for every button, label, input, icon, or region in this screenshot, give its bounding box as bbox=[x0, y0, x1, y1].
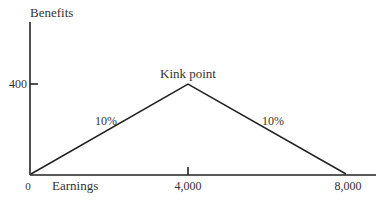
benefit-chart: Benefits 400 0 Earnings 4,000 8,000 Kink… bbox=[0, 0, 382, 204]
benefit-line bbox=[31, 84, 346, 174]
rate-label-left: 10% bbox=[95, 114, 117, 128]
y-axis-label: Benefits bbox=[30, 5, 73, 20]
x-tick-label-4000: 4,000 bbox=[175, 179, 202, 193]
x-tick-label-8000: 8,000 bbox=[335, 179, 362, 193]
origin-label: 0 bbox=[25, 180, 31, 192]
x-axis-label: Earnings bbox=[52, 178, 98, 193]
rate-label-right: 10% bbox=[262, 114, 284, 128]
y-tick-label-400: 400 bbox=[9, 77, 27, 91]
kink-point-label: Kink point bbox=[160, 66, 216, 81]
